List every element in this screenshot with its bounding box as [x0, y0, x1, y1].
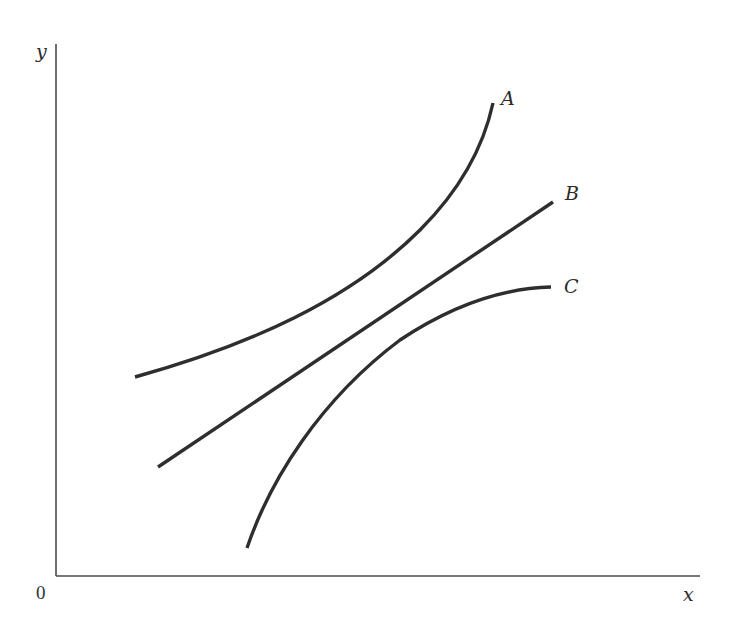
origin-label: 0	[36, 582, 46, 603]
y-axis-label: y	[35, 40, 47, 62]
curve-a-label: A	[499, 87, 515, 109]
curve-a	[135, 103, 493, 377]
curves-diagram: y x 0 A B C	[0, 0, 738, 640]
curve-b	[158, 202, 553, 467]
curve-b-label: B	[564, 182, 579, 204]
curve-c-label: C	[564, 275, 579, 297]
curve-c	[247, 287, 551, 548]
x-axis-label: x	[683, 583, 694, 605]
